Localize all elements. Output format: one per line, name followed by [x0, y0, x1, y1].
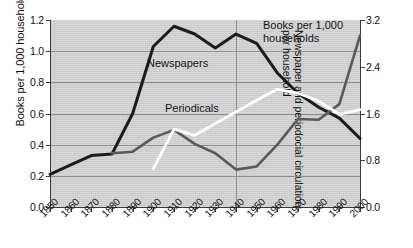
right-axis-title-line1: Newspaper and periodocial circulation — [293, 30, 305, 210]
tick-mark-right — [361, 160, 365, 161]
tick-mark-left — [46, 176, 50, 177]
right-axis-tick-label: 0.0 — [366, 202, 400, 212]
tick-mark-left — [46, 114, 50, 115]
right-axis-title: Newspaper and periodocial circulation pe… — [281, 30, 305, 210]
gridline-horizontal — [50, 82, 360, 83]
right-axis-title-line2: per household — [281, 30, 293, 210]
books-label-line1: Books per 1,000 — [263, 19, 343, 31]
tick-mark-left — [46, 145, 50, 146]
right-axis-tick-label: 2.4 — [366, 62, 400, 72]
left-axis-title: Books per 1,000 households — [14, 0, 26, 146]
tick-mark-left — [46, 51, 50, 52]
books-label: Books per 1,000 households — [263, 19, 355, 45]
gridline-horizontal — [50, 176, 360, 177]
books-label-line2: households — [263, 32, 319, 44]
tick-mark-right — [361, 114, 365, 115]
left-axis-line — [50, 20, 51, 208]
tick-mark-left — [46, 82, 50, 83]
gridline-horizontal — [50, 51, 360, 52]
gridline-vertical — [236, 20, 237, 207]
tick-mark-right — [361, 20, 365, 21]
right-axis-tick-label: 1.6 — [366, 109, 400, 119]
right-axis-tick-label: 3.2 — [366, 15, 400, 25]
periodicals-label: Periodicals — [165, 102, 219, 115]
tick-mark-right — [361, 67, 365, 68]
tick-mark-left — [46, 20, 50, 21]
right-axis-tick-label: 0.8 — [366, 155, 400, 165]
gridline-horizontal — [50, 145, 360, 146]
left-axis-tick-label: 0.2 — [4, 171, 44, 181]
chart-figure: 0.00.20.40.60.81.01.2 0.00.81.62.43.2 18… — [0, 0, 413, 248]
newspapers-label: Newspapers — [147, 57, 208, 70]
